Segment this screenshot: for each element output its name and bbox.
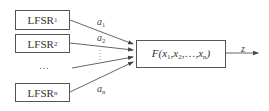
diagram-canvas: LFSR1 LFSR2 … LFSRn a1 a2 ···· an F(x1,x… [0, 0, 269, 111]
lfsr-2-subscript: 2 [54, 40, 58, 48]
lfsr-2-box: LFSR2 [15, 34, 70, 53]
lfsr-2-label: LFSR [28, 38, 54, 50]
lfsr-1-box: LFSR1 [15, 10, 70, 30]
lfsr-n-label: LFSR [28, 87, 54, 99]
function-expression: F(x1,x2,…,xn) [152, 47, 211, 61]
lfsr-n-subscript: n [54, 89, 58, 97]
lfsr-1-label: LFSR [28, 14, 54, 26]
label-an: an [97, 84, 105, 96]
label-a2: a2 [97, 33, 105, 45]
combining-function-box: F(x1,x2,…,xn) [136, 40, 226, 68]
lfsr-n-box: LFSRn [15, 83, 70, 102]
vertical-ellipsis: ···· [98, 49, 102, 61]
output-label-z: z [241, 44, 245, 54]
lfsr-1-subscript: 1 [54, 16, 58, 24]
label-a1: a1 [97, 17, 105, 29]
register-ellipsis: … [39, 60, 49, 71]
